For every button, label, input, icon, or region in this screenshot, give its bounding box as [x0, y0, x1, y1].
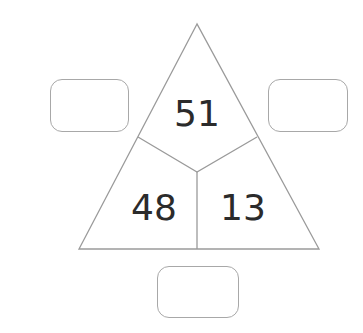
answer-box-bottom[interactable]: [157, 266, 239, 318]
answer-box-left[interactable]: [50, 79, 129, 132]
divider-top: [138, 137, 257, 172]
bottom-right-value: 13: [203, 188, 283, 228]
top-value: 51: [157, 94, 237, 134]
bottom-left-value: 48: [114, 188, 194, 228]
answer-box-right[interactable]: [268, 79, 348, 132]
